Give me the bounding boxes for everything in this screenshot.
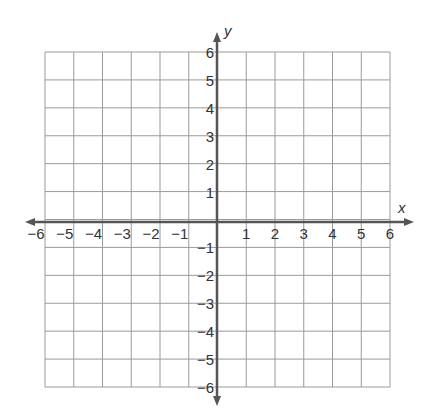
x-tick-label: 4 [328,225,336,242]
y-axis-label: y [223,22,233,39]
x-tick-label: −2 [142,225,159,242]
y-tick-label: −4 [197,323,214,340]
x-tick-label: −4 [85,225,102,242]
x-tick-label: −6 [27,225,44,242]
y-axis-up-arrow-icon [213,32,221,42]
x-tick-label: 3 [300,225,308,242]
y-tick-label: −2 [197,267,214,284]
y-tick-label: −3 [197,295,214,312]
x-tick-label: −5 [56,225,73,242]
x-tick-label: −3 [114,225,131,242]
y-tick-label: −1 [197,239,214,256]
y-tick-label: 2 [206,156,214,173]
x-tick-label: 1 [242,225,250,242]
y-tick-label: −5 [197,351,214,368]
y-tick-label: 4 [206,100,214,117]
y-tick-label: 3 [206,128,214,145]
x-axis-label: x [397,199,406,216]
y-tick-label: 6 [206,44,214,61]
y-axis-down-arrow-icon [213,396,221,406]
x-tick-label: 5 [357,225,365,242]
y-tick-label: 5 [206,72,214,89]
x-tick-label: −1 [171,225,188,242]
y-tick-label: 1 [206,184,214,201]
y-tick-label: −6 [197,379,214,396]
x-tick-label: 6 [386,225,394,242]
x-axis-right-arrow-icon [404,218,414,226]
coordinate-plane: y x −6−5−4−3−2−1123456 654321−1−2−3−4−5−… [0,0,430,417]
x-tick-label: 2 [271,225,279,242]
